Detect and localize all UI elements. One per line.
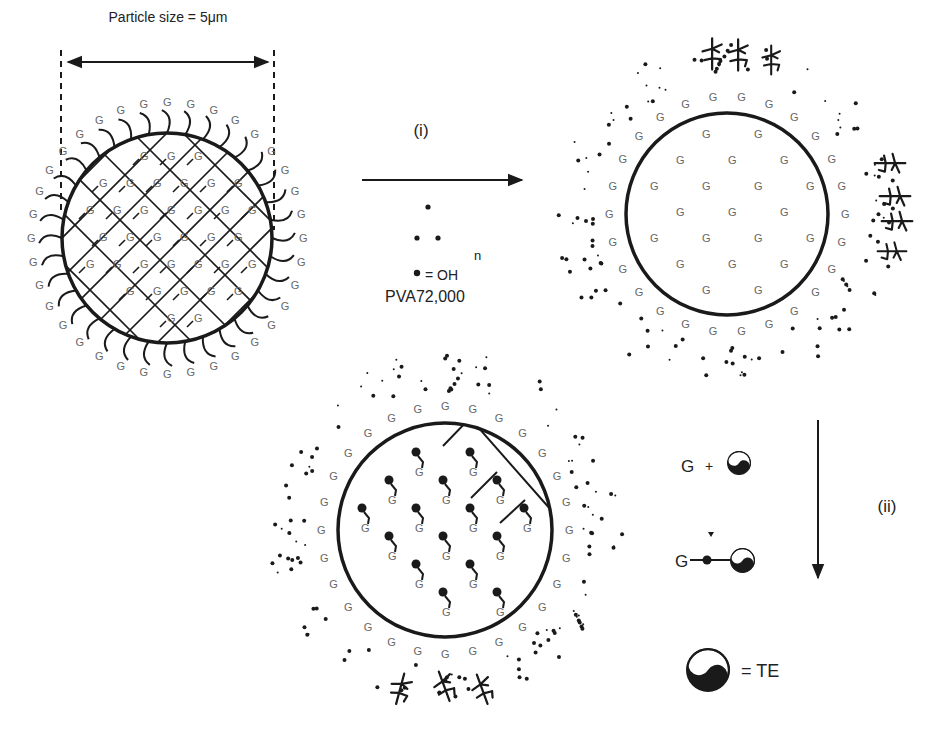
g-group-label: G	[140, 258, 149, 270]
pva-dot	[290, 463, 294, 467]
pva-dot	[295, 540, 297, 542]
g-group-label: G	[496, 550, 505, 562]
pva-dot	[371, 394, 375, 398]
panel-te-loaded-particle: GGGGGGGGGGGGGGGG GGGGGGGGGGGGGGGGGGGGGGG…	[270, 354, 624, 707]
g-group-label: G	[413, 645, 422, 657]
pva-dot	[485, 356, 487, 358]
pva-dot	[609, 492, 613, 496]
pva-dot	[715, 67, 719, 71]
g-group-label: G	[441, 400, 450, 412]
pva-dot	[701, 356, 705, 360]
pva-dot	[731, 362, 735, 366]
pva-dot	[572, 222, 574, 224]
pva-dot	[743, 355, 747, 359]
pva-dot	[586, 481, 590, 485]
pva-dot	[746, 67, 750, 71]
internal-g-groups: GGGGGGGGGGGGGGGGGGGGGGGGGGGGGGGGGGGG	[79, 150, 257, 327]
g-group-label: G	[364, 621, 373, 633]
particle-outline-2	[626, 113, 828, 315]
pva-dot	[546, 629, 548, 631]
te-bead	[385, 532, 394, 541]
pva-dot	[614, 494, 616, 496]
pva-dot	[564, 257, 568, 261]
g-group-label: G	[139, 366, 148, 378]
g-group-label: G	[27, 232, 36, 244]
g-group-label: G	[709, 91, 718, 103]
pva-dot	[591, 244, 595, 248]
pva-dot	[585, 157, 587, 159]
g-group-label: G	[95, 350, 104, 362]
g-group-label: G	[180, 285, 189, 297]
pva-dot	[669, 359, 671, 361]
pva-dot	[816, 344, 820, 348]
pva-dot	[587, 506, 589, 508]
g-group-label: G	[605, 208, 614, 220]
pva-dot	[724, 360, 728, 364]
g-group-label: G	[139, 98, 148, 110]
pva-dot	[757, 356, 761, 360]
panel-crosslinked-particle: Particle size = 5μm GGGGGGGGGGGGGGG	[20, 9, 340, 430]
pva-dot	[448, 386, 452, 390]
te-bead	[412, 560, 421, 569]
pva-dot	[764, 48, 768, 52]
pva-dot	[381, 380, 383, 382]
pva-dot	[587, 545, 591, 549]
g-group-label: G	[518, 621, 527, 633]
pva-dot	[843, 280, 845, 282]
pva-dot	[854, 101, 858, 105]
pva-dot	[665, 89, 667, 91]
g-group-label: G	[267, 145, 276, 157]
g-group-label: G	[140, 150, 149, 162]
te-bead	[466, 448, 475, 457]
te-product-icon	[726, 544, 758, 576]
te-bead	[412, 448, 421, 457]
pva-dot	[347, 649, 351, 653]
g-group-label: G	[329, 470, 338, 482]
g-group-label: G	[553, 578, 562, 590]
g-group-label: G	[248, 258, 257, 270]
pva-dot	[281, 528, 283, 530]
pva-dot	[414, 663, 418, 667]
pva-dot	[741, 371, 743, 373]
g-group-label: G	[827, 263, 836, 275]
pva-dot	[590, 531, 594, 535]
pva-dot	[591, 238, 595, 242]
g-group-label: G	[838, 180, 847, 192]
g-group-label: G	[806, 232, 815, 244]
g-group-label: G	[780, 206, 789, 218]
g-group-label: G	[737, 91, 746, 103]
pva-dot	[729, 349, 733, 353]
g-group-label: G	[523, 522, 532, 534]
te-bead	[412, 504, 421, 513]
pva-dot	[847, 327, 851, 331]
g-group-label: G	[99, 231, 108, 243]
pva-dot	[876, 240, 880, 244]
pva-dot	[597, 255, 599, 257]
g-group-label: G	[676, 154, 685, 166]
pva-dot	[366, 372, 368, 374]
schematic-diagram: Particle size = 5μm GGGGGGGGGGGGGGG	[0, 0, 942, 734]
pva-dot	[834, 315, 838, 319]
pva-dot	[290, 558, 294, 562]
g-group-label: G	[234, 231, 243, 243]
g-group-label: G	[344, 447, 353, 459]
pva-dot	[476, 383, 480, 387]
pva-dot	[659, 67, 661, 69]
pva-dot	[342, 658, 346, 662]
g-group-label: G	[320, 496, 329, 508]
surface-g-chains: GGGGGGGGGGGGGGGGGGGGGGGGGGGGGGGGGGGG	[27, 96, 308, 380]
g-group-label: G	[387, 412, 396, 424]
g-group-label: G	[113, 204, 122, 216]
te-bead	[493, 588, 502, 597]
g-group-label: G	[702, 128, 711, 140]
g-group-label: G	[126, 177, 135, 189]
pva-dot	[547, 425, 549, 427]
pva-dot	[639, 316, 643, 320]
internal-g-groups: GGGGGGGGGGGGGGGGGGGGG	[650, 128, 815, 296]
pva-dot	[751, 359, 753, 361]
pva-branch	[882, 212, 913, 231]
pva-dot	[579, 295, 583, 299]
pva-dot	[308, 466, 310, 468]
pva-dot	[645, 84, 647, 86]
pva-dot	[585, 594, 587, 596]
